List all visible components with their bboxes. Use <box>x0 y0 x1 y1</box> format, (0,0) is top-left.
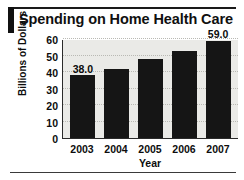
x-tick-label: 2007 <box>206 143 231 155</box>
bar-slot: 59.0 <box>206 40 231 138</box>
y-axis-tick-labels: 0102030405060 <box>38 40 58 140</box>
plot-frame: 0102030405060 38.059.0 <box>38 40 238 141</box>
x-tick-label: 2005 <box>138 143 163 155</box>
x-tick-label: 2004 <box>104 143 129 155</box>
y-tick-label: 30 <box>38 84 58 95</box>
title-top-rule <box>9 7 236 9</box>
y-tick-label: 60 <box>38 35 58 46</box>
bar-2005[interactable] <box>138 59 163 138</box>
bar-slot <box>138 40 163 138</box>
bar-value-label: 59.0 <box>208 29 228 40</box>
bar-value-label: 38.0 <box>73 64 93 75</box>
bar-slot <box>104 40 129 138</box>
bar-2003[interactable] <box>70 75 95 138</box>
footer-rule <box>10 172 236 173</box>
plot-area: 38.059.0 <box>62 40 238 139</box>
y-tick-label: 40 <box>38 68 58 79</box>
x-tick-label: 2003 <box>70 143 95 155</box>
y-tick-label: 0 <box>38 134 58 145</box>
bar-slot <box>172 40 197 138</box>
x-tick-label: 2006 <box>172 143 197 155</box>
y-tick-label: 10 <box>38 117 58 128</box>
bar-slot: 38.0 <box>70 40 95 138</box>
x-axis-title: Year <box>62 157 238 169</box>
y-tick-label: 20 <box>38 101 58 112</box>
x-axis-tick-labels: 20032004200520062007 <box>62 143 238 155</box>
chart-title: Spending on Home Health Care <box>19 11 233 27</box>
y-tick-label: 50 <box>38 51 58 62</box>
bar-2004[interactable] <box>104 69 129 138</box>
y-axis-title: Billions of Dollars <box>17 6 28 102</box>
title-accent-bar <box>8 7 14 33</box>
bar-series: 38.059.0 <box>63 40 238 138</box>
bar-2007[interactable] <box>206 41 231 138</box>
bar-2006[interactable] <box>172 51 197 138</box>
